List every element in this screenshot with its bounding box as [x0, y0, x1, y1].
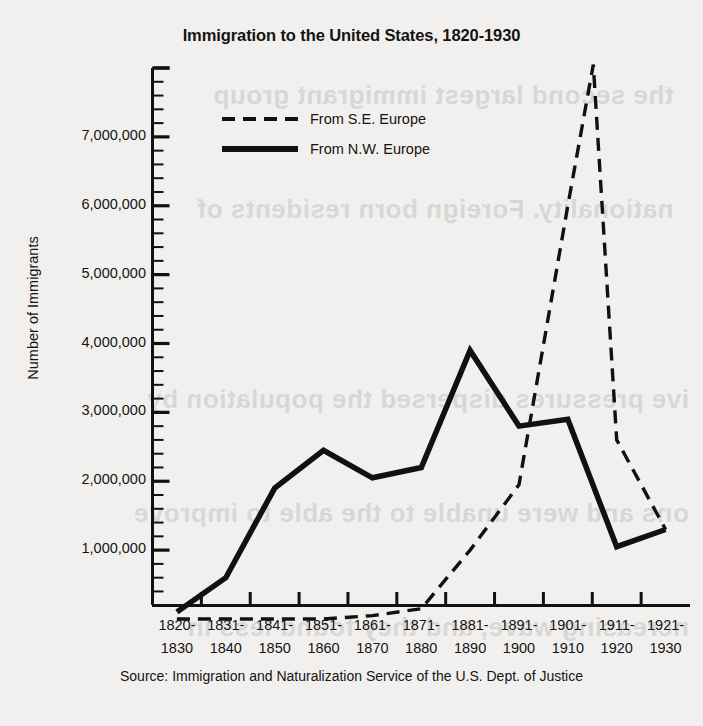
- x-tick-label-end: 1930: [641, 637, 690, 660]
- y-axis-ticks: [153, 68, 170, 605]
- x-tick-label-start: 1901-: [543, 614, 592, 637]
- x-axis-ticks: [201, 592, 641, 605]
- series-line-nw-europe: [177, 350, 666, 612]
- x-tick-label: 1871-1880: [397, 614, 446, 660]
- x-tick-label-end: 1880: [397, 637, 446, 660]
- x-tick-label-end: 1900: [495, 637, 544, 660]
- x-tick-label-end: 1860: [299, 637, 348, 660]
- x-tick-label-start: 1820-: [153, 614, 202, 637]
- x-tick-label-end: 1830: [153, 637, 202, 660]
- x-tick-label-end: 1850: [250, 637, 299, 660]
- x-tick-label-start: 1851-: [299, 614, 348, 637]
- x-tick-label-start: 1831-: [201, 614, 250, 637]
- x-tick-label: 1881-1890: [446, 614, 495, 660]
- x-tick-label-start: 1891-: [495, 614, 544, 637]
- x-tick-label: 1841-1850: [250, 614, 299, 660]
- x-tick-label: 1861-1870: [348, 614, 397, 660]
- x-tick-label-end: 1890: [446, 637, 495, 660]
- x-tick-label-end: 1870: [348, 637, 397, 660]
- chart-figure: Immigration to the United States, 1820-1…: [0, 0, 703, 726]
- x-tick-label: 1831-1840: [201, 614, 250, 660]
- x-tick-label-end: 1920: [592, 637, 641, 660]
- x-tick-label-start: 1861-: [348, 614, 397, 637]
- x-tick-label: 1851-1860: [299, 614, 348, 660]
- x-tick-label-start: 1921-: [641, 614, 690, 637]
- x-axis-tick-labels: 1820-18301831-18401841-18501851-18601861…: [0, 614, 703, 674]
- chart-source-note: Source: Immigration and Naturalization S…: [0, 668, 703, 684]
- x-tick-label: 1901-1910: [543, 614, 592, 660]
- x-tick-label-start: 1881-: [446, 614, 495, 637]
- x-tick-label: 1921-1930: [641, 614, 690, 660]
- x-tick-label-end: 1910: [543, 637, 592, 660]
- x-tick-label-start: 1911-: [592, 614, 641, 637]
- x-tick-label: 1911-1920: [592, 614, 641, 660]
- x-tick-label: 1891-1900: [495, 614, 544, 660]
- x-tick-label-start: 1871-: [397, 614, 446, 637]
- x-tick-label: 1820-1830: [153, 614, 202, 660]
- x-tick-label-end: 1840: [201, 637, 250, 660]
- x-tick-label-start: 1841-: [250, 614, 299, 637]
